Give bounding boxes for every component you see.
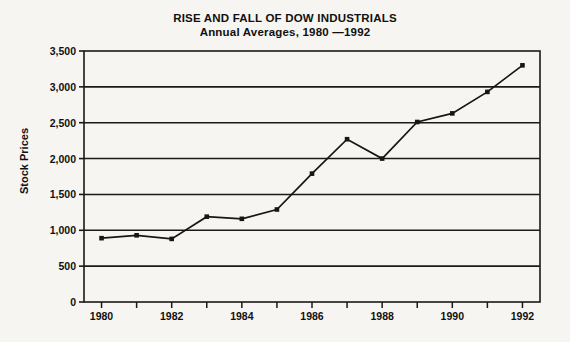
- data-point: [520, 63, 525, 68]
- x-axis-ticks: [102, 302, 523, 308]
- y-axis-label: Stock Prices: [18, 106, 30, 216]
- data-point: [204, 214, 209, 219]
- plot-frame: [84, 51, 540, 302]
- data-point: [240, 217, 245, 222]
- chart-title-block: RISE AND FALL OF DOW INDUSTRIALS Annual …: [0, 11, 570, 39]
- data-point: [415, 120, 420, 125]
- data-point: [345, 137, 350, 142]
- data-point: [169, 237, 174, 242]
- data-point: [450, 111, 455, 116]
- data-point: [380, 156, 385, 161]
- data-point: [134, 233, 139, 238]
- chart-figure: RISE AND FALL OF DOW INDUSTRIALS Annual …: [0, 0, 570, 342]
- data-point: [485, 90, 490, 95]
- data-point: [275, 207, 280, 212]
- data-point: [310, 171, 315, 176]
- plot-area: [0, 0, 570, 342]
- chart-subtitle: Annual Averages, 1980 —1992: [0, 25, 570, 39]
- data-line: [102, 65, 523, 239]
- chart-title: RISE AND FALL OF DOW INDUSTRIALS: [0, 11, 570, 25]
- data-markers: [99, 63, 525, 241]
- data-point: [99, 236, 104, 241]
